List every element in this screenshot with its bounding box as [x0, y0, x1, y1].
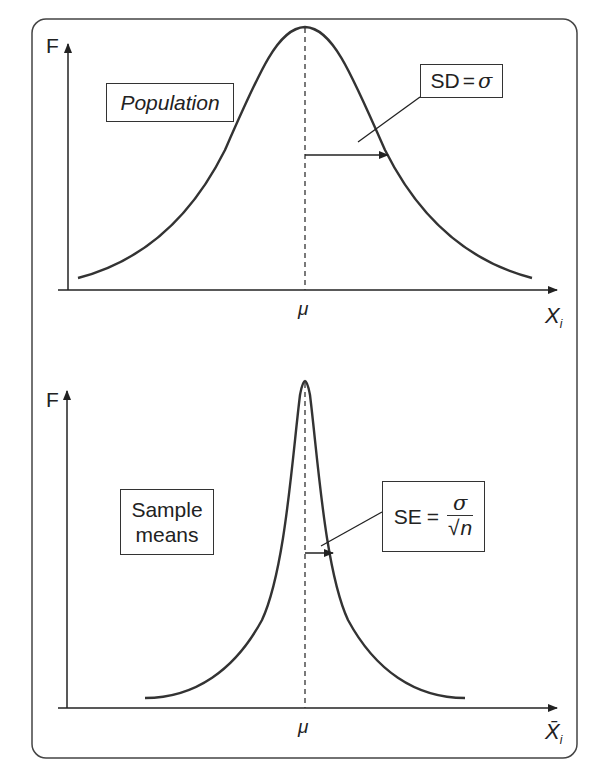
- se-equals: =: [427, 505, 439, 529]
- y-axis-label-bottom: F: [46, 389, 59, 410]
- sample-means-label-box: Sample means: [120, 489, 214, 555]
- mean-label-top: μ: [298, 299, 308, 318]
- sample-means-label-line2: means: [135, 522, 198, 547]
- sample-means-label-line1: Sample: [131, 497, 202, 522]
- se-numerator-sigma: σ: [447, 492, 473, 516]
- se-annotation-box: SE = σ √n: [382, 481, 485, 552]
- sqrt-icon: √: [448, 516, 460, 539]
- se-leader-line: [321, 512, 382, 546]
- y-axis-label-top: F: [46, 35, 59, 56]
- x-bar-axis-var: X̄: [545, 719, 560, 744]
- sd-equals: =: [463, 69, 475, 93]
- se-lhs: SE: [394, 505, 422, 529]
- mean-label-bottom: μ: [298, 717, 308, 736]
- population-label: Population: [120, 91, 219, 115]
- se-denominator: √n: [448, 516, 472, 540]
- sd-lhs: SD: [431, 69, 460, 93]
- x-axis-label-bottom: X̄i: [545, 721, 562, 746]
- se-denominator-n: n: [460, 515, 473, 539]
- x-axis-label-top: Xi: [545, 305, 562, 330]
- se-fraction: σ √n: [447, 492, 473, 540]
- sd-leader-line: [358, 97, 420, 142]
- diagram-canvas: [0, 0, 595, 776]
- sd-sigma: σ: [478, 69, 492, 93]
- x-axis-subscript: i: [560, 733, 563, 747]
- population-label-box: Population: [106, 83, 234, 122]
- sd-annotation-box: SD = σ: [420, 64, 503, 98]
- x-axis-var: X: [545, 303, 560, 328]
- x-axis-subscript: i: [560, 317, 563, 331]
